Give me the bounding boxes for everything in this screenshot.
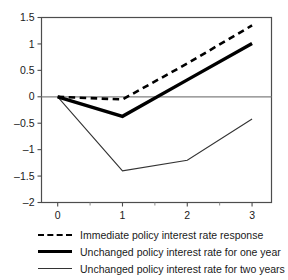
x-tick-label: 3: [249, 209, 255, 221]
data-series-layer: [58, 25, 252, 170]
legend-label-one-year: Unchanged policy interest rate for one y…: [80, 246, 281, 258]
legend-swatch-thin-icon: [38, 263, 72, 275]
legend-item-immediate: Immediate policy interest rate response: [0, 226, 288, 243]
x-tick-label: 0: [55, 209, 61, 221]
x-axis-tick-labels: 0123: [55, 209, 255, 221]
legend-item-two-years: Unchanged policy interest rate for two y…: [0, 260, 288, 277]
y-tick-label: 1: [29, 38, 35, 50]
y-axis-tick-labels: 1.510.50–0.5–1–1.5–2: [14, 11, 35, 208]
y-tick-label: –1: [23, 143, 35, 155]
series-line: [58, 43, 252, 116]
y-tick-label: 0.5: [20, 64, 35, 76]
y-tick-label: 1.5: [20, 11, 35, 23]
legend-swatch-dashed-icon: [38, 229, 72, 241]
plot-border: [42, 18, 272, 203]
figure: 1.510.50–0.5–1–1.5–2 0123 Immediate poli…: [0, 0, 288, 280]
y-tick-label: –1.5: [14, 170, 35, 182]
x-tick-label: 1: [120, 209, 126, 221]
legend-item-one-year: Unchanged policy interest rate for one y…: [0, 243, 288, 260]
legend-swatch-thick-icon: [38, 246, 72, 258]
x-tick-label: 2: [184, 209, 190, 221]
chart-legend: Immediate policy interest rate response …: [0, 226, 288, 277]
y-tick-label: 0: [29, 90, 35, 102]
y-tick-label: –2: [23, 196, 35, 208]
legend-label-two-years: Unchanged policy interest rate for two y…: [80, 263, 285, 275]
legend-label-immediate: Immediate policy interest rate response: [80, 229, 263, 241]
series-line: [58, 97, 252, 171]
series-line: [58, 25, 252, 99]
y-tick-label: –0.5: [14, 117, 35, 129]
chart-plot: 1.510.50–0.5–1–1.5–2 0123: [0, 0, 288, 226]
